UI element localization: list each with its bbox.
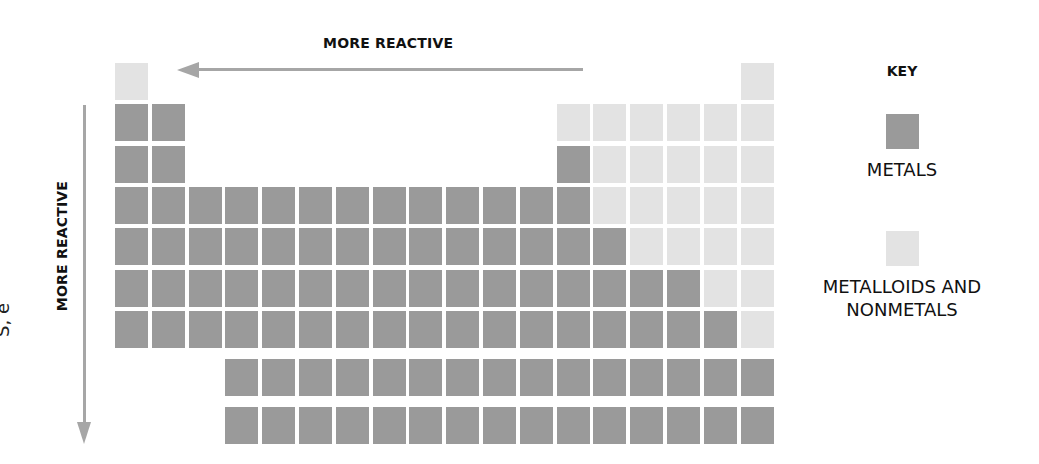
element-cell-p6-g16 <box>667 270 700 307</box>
lanthanides-cell <box>593 359 626 396</box>
element-cell-p5-g5 <box>262 228 295 265</box>
element-cell-p4-g8 <box>373 187 406 224</box>
element-cell-p4-g3 <box>189 187 222 224</box>
actinides-cell <box>593 407 626 444</box>
element-cell-p5-g2 <box>152 228 185 265</box>
element-cell-p4-g11 <box>483 187 516 224</box>
element-cell-p3-g16 <box>667 146 700 183</box>
element-cell-p7-g6 <box>299 311 332 348</box>
left-arrow-icon <box>177 62 199 78</box>
element-cell-p5-g16 <box>667 228 700 265</box>
element-cell-p6-g8 <box>373 270 406 307</box>
element-cell-p3-g2 <box>152 146 185 183</box>
actinides-cell <box>409 407 442 444</box>
element-cell-p3-g18 <box>741 146 774 183</box>
element-cell-p4-g17 <box>704 187 737 224</box>
element-cell-p1-g18 <box>741 63 774 100</box>
element-cell-p2-g16 <box>667 104 700 141</box>
element-cell-p4-g13 <box>557 187 590 224</box>
element-cell-p4-g15 <box>630 187 663 224</box>
element-cell-p2-g15 <box>630 104 663 141</box>
element-cell-p4-g16 <box>667 187 700 224</box>
element-cell-p6-g17 <box>704 270 737 307</box>
element-cell-p6-g5 <box>262 270 295 307</box>
element-cell-p5-g18 <box>741 228 774 265</box>
element-cell-p5-g8 <box>373 228 406 265</box>
element-cell-p5-g10 <box>446 228 479 265</box>
actinides-cell <box>557 407 590 444</box>
lanthanides-cell <box>557 359 590 396</box>
element-cell-p7-g11 <box>483 311 516 348</box>
element-cell-p6-g1 <box>115 270 148 307</box>
element-cell-p5-g3 <box>189 228 222 265</box>
element-cell-p4-g4 <box>225 187 258 224</box>
element-cell-p2-g14 <box>593 104 626 141</box>
element-cell-p2-g1 <box>115 104 148 141</box>
actinides-cell <box>483 407 516 444</box>
lanthanides-cell <box>483 359 516 396</box>
element-cell-p2-g17 <box>704 104 737 141</box>
element-cell-p7-g5 <box>262 311 295 348</box>
element-cell-p4-g6 <box>299 187 332 224</box>
element-cell-p7-g16 <box>667 311 700 348</box>
legend-label-nonmetals-line1: METALLOIDS AND <box>800 275 1004 298</box>
element-cell-p6-g3 <box>189 270 222 307</box>
lanthanides-cell <box>262 359 295 396</box>
cutoff-text-fragment: S, e <box>0 303 13 337</box>
element-cell-p2-g18 <box>741 104 774 141</box>
element-cell-p7-g9 <box>409 311 442 348</box>
actinides-cell <box>373 407 406 444</box>
element-cell-p6-g15 <box>630 270 663 307</box>
element-cell-p4-g9 <box>409 187 442 224</box>
element-cell-p4-g18 <box>741 187 774 224</box>
lanthanides-cell <box>336 359 369 396</box>
element-cell-p4-g1 <box>115 187 148 224</box>
element-cell-p6-g11 <box>483 270 516 307</box>
actinides-cell <box>667 407 700 444</box>
element-cell-p3-g17 <box>704 146 737 183</box>
lanthanides-cell <box>667 359 700 396</box>
element-cell-p6-g10 <box>446 270 479 307</box>
element-cell-p5-g7 <box>336 228 369 265</box>
legend-label-nonmetals-line2: NONMETALS <box>800 298 1004 321</box>
element-cell-p7-g7 <box>336 311 369 348</box>
element-cell-p1-g1 <box>115 63 148 100</box>
actinides-cell <box>336 407 369 444</box>
element-cell-p6-g12 <box>520 270 553 307</box>
element-cell-p5-g14 <box>593 228 626 265</box>
element-cell-p6-g14 <box>593 270 626 307</box>
horizontal-reactivity-label: MORE REACTIVE <box>323 35 453 51</box>
down-arrow-line <box>83 105 86 425</box>
element-cell-p7-g18 <box>741 311 774 348</box>
element-cell-p7-g15 <box>630 311 663 348</box>
element-cell-p7-g12 <box>520 311 553 348</box>
element-cell-p4-g10 <box>446 187 479 224</box>
element-cell-p7-g14 <box>593 311 626 348</box>
vertical-reactivity-label: MORE REACTIVE <box>54 181 70 311</box>
element-cell-p5-g1 <box>115 228 148 265</box>
element-cell-p6-g7 <box>336 270 369 307</box>
element-cell-p5-g4 <box>225 228 258 265</box>
element-cell-p7-g3 <box>189 311 222 348</box>
element-cell-p7-g1 <box>115 311 148 348</box>
actinides-cell <box>446 407 479 444</box>
element-cell-p7-g17 <box>704 311 737 348</box>
actinides-cell <box>630 407 663 444</box>
element-cell-p5-g13 <box>557 228 590 265</box>
element-cell-p6-g4 <box>225 270 258 307</box>
element-cell-p5-g9 <box>409 228 442 265</box>
element-cell-p3-g1 <box>115 146 148 183</box>
legend-label-metals: METALS <box>800 158 1004 181</box>
actinides-cell <box>225 407 258 444</box>
left-arrow-line <box>196 68 583 71</box>
actinides-cell <box>704 407 737 444</box>
element-cell-p3-g14 <box>593 146 626 183</box>
legend-swatch-nonmetals <box>886 231 919 266</box>
lanthanides-cell <box>225 359 258 396</box>
element-cell-p3-g13 <box>557 146 590 183</box>
element-cell-p7-g13 <box>557 311 590 348</box>
lanthanides-cell <box>409 359 442 396</box>
element-cell-p4-g14 <box>593 187 626 224</box>
lanthanides-cell <box>741 359 774 396</box>
element-cell-p4-g5 <box>262 187 295 224</box>
